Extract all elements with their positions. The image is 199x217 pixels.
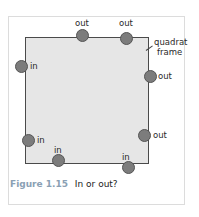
sample-point-top-left: [76, 29, 89, 42]
frame-label-line2: frame: [154, 48, 187, 58]
point-label-bottom-left: in: [54, 146, 62, 155]
point-label-top-right: out: [119, 19, 133, 28]
sample-point-right-lower: [138, 129, 151, 142]
sample-point-left-upper: [15, 60, 28, 73]
sample-point-left-lower: [22, 134, 35, 147]
point-label-left-upper: in: [30, 62, 38, 71]
caption-text: In or out?: [75, 179, 118, 189]
figure-number: Figure 1.15: [10, 179, 68, 189]
point-label-left-lower: in: [37, 136, 45, 145]
point-label-right-upper: out: [158, 72, 172, 81]
point-label-top-left: out: [75, 19, 89, 28]
sample-point-bottom-left: [52, 154, 65, 167]
sample-point-top-right: [120, 32, 133, 45]
quadrat-frame-label: quadrat frame: [154, 38, 187, 58]
sample-point-right-upper: [144, 70, 157, 83]
point-label-bottom-right: in: [122, 153, 130, 162]
sample-point-bottom-right: [122, 161, 135, 174]
figure-caption: Figure 1.15 In or out?: [10, 179, 118, 189]
point-label-right-lower: out: [153, 131, 167, 140]
